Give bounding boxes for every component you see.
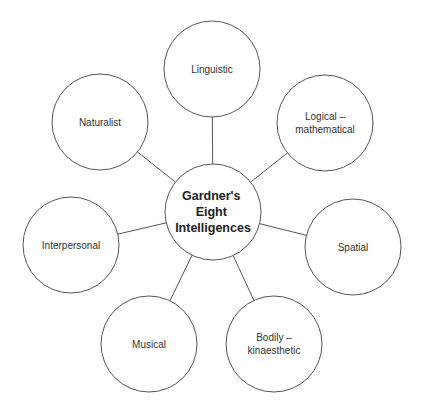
node-interpersonal: Interpersonal bbox=[23, 197, 119, 293]
node-label-musical: Musical bbox=[132, 339, 166, 350]
node-label-linguistic: Linguistic bbox=[191, 64, 233, 75]
node-circle-bodily-kinaesthetic bbox=[226, 296, 322, 392]
center-label-line-2: Eight bbox=[196, 205, 228, 219]
node-label-line: Linguistic bbox=[191, 64, 233, 75]
node-label-line: Interpersonal bbox=[42, 240, 100, 251]
node-label-spatial: Spatial bbox=[338, 242, 369, 253]
center-label-line-1: Gardner's bbox=[182, 189, 241, 203]
intelligences-diagram: LinguisticLogical –mathematicalSpatialBo… bbox=[0, 0, 422, 412]
node-logical-mathematical: Logical –mathematical bbox=[277, 75, 373, 171]
node-naturalist: Naturalist bbox=[52, 74, 148, 170]
node-label-interpersonal: Interpersonal bbox=[42, 240, 100, 251]
connector-spatial bbox=[260, 224, 307, 236]
node-spatial: Spatial bbox=[305, 199, 401, 295]
node-label-line: Naturalist bbox=[79, 117, 121, 128]
connector-musical bbox=[170, 255, 192, 301]
node-label-line: mathematical bbox=[295, 124, 354, 135]
node-label-naturalist: Naturalist bbox=[79, 117, 121, 128]
connector-naturalist bbox=[138, 152, 176, 182]
node-musical: Musical bbox=[101, 296, 197, 392]
node-linguistic: Linguistic bbox=[164, 21, 260, 117]
node-label-line: Musical bbox=[132, 339, 166, 350]
node-label-line: Spatial bbox=[338, 242, 369, 253]
center-label-line-3: Intelligences bbox=[175, 221, 251, 235]
node-label-line: Bodily – bbox=[256, 332, 292, 343]
connector-bodily-kinaesthetic bbox=[233, 256, 254, 301]
node-bodily-kinaesthetic: Bodily –kinaesthetic bbox=[226, 296, 322, 392]
node-label-line: Logical – bbox=[305, 111, 345, 122]
connector-interpersonal bbox=[118, 223, 166, 234]
center-node: Gardner's Eight Intelligences bbox=[165, 164, 261, 260]
node-circle-logical-mathematical bbox=[277, 75, 373, 171]
node-label-line: kinaesthetic bbox=[248, 345, 301, 356]
connector-logical-mathematical bbox=[251, 153, 288, 182]
